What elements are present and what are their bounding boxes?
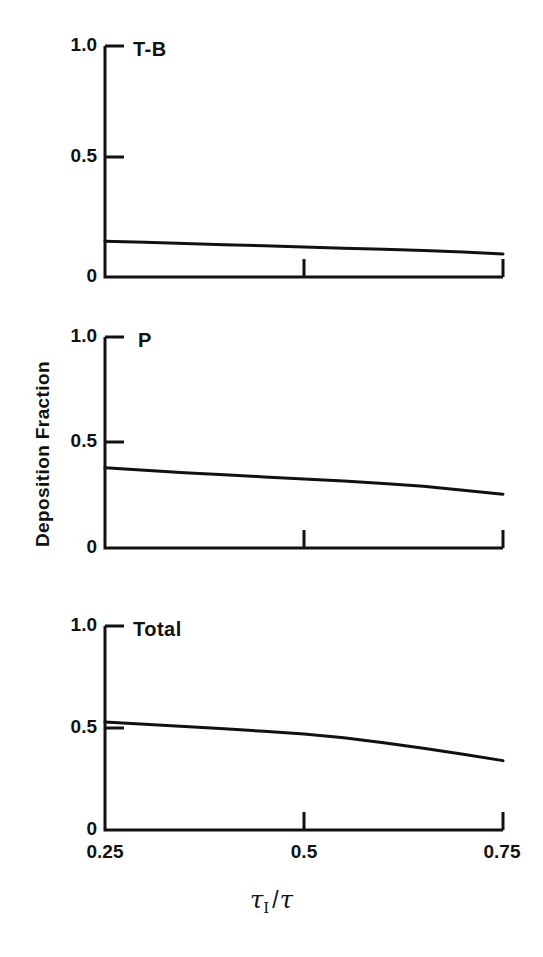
panel-t-b: 1.0 0.5 0 T-B xyxy=(0,0,543,300)
fraction-slash: / xyxy=(269,887,279,913)
panel-title-total: Total xyxy=(133,618,182,641)
y-tick-label-1: 1.0 xyxy=(42,34,97,56)
data-curve-t-b xyxy=(105,241,503,254)
data-curve-total xyxy=(105,722,503,761)
axis-spines xyxy=(105,337,503,548)
deposition-fraction-figure: Deposition Fraction 1.0 0.5 0 T-B xyxy=(0,0,543,957)
x-tick-label-075: 0.75 xyxy=(462,841,542,863)
panel-title-t-b: T-B xyxy=(133,38,167,61)
tau-denominator: τ xyxy=(280,886,293,914)
y-tick-label-0: 0 xyxy=(42,818,97,840)
x-tick-label-05: 0.5 xyxy=(268,841,340,863)
y-tick-label-0: 0 xyxy=(42,536,97,558)
y-tick-label-05: 0.5 xyxy=(42,430,97,452)
y-tick-label-05: 0.5 xyxy=(42,145,97,167)
x-axis-title: τI/τ xyxy=(0,886,543,917)
panel-total: 1.0 0.5 0 Total xyxy=(0,580,543,870)
y-tick-label-0: 0 xyxy=(42,265,97,287)
x-tick-label-025: 0.25 xyxy=(65,841,145,863)
tau-numerator: τ xyxy=(250,886,263,914)
y-tick-label-1: 1.0 xyxy=(42,614,97,636)
axis-lines-p xyxy=(105,337,503,548)
panel-title-p: P xyxy=(138,329,152,352)
data-curve-p xyxy=(105,468,503,494)
axis-spines xyxy=(105,626,503,830)
axis-lines-total xyxy=(105,626,503,830)
y-tick-label-05: 0.5 xyxy=(42,716,97,738)
panel-p: 1.0 0.5 0 P xyxy=(0,291,543,571)
y-tick-label-1: 1.0 xyxy=(42,325,97,347)
